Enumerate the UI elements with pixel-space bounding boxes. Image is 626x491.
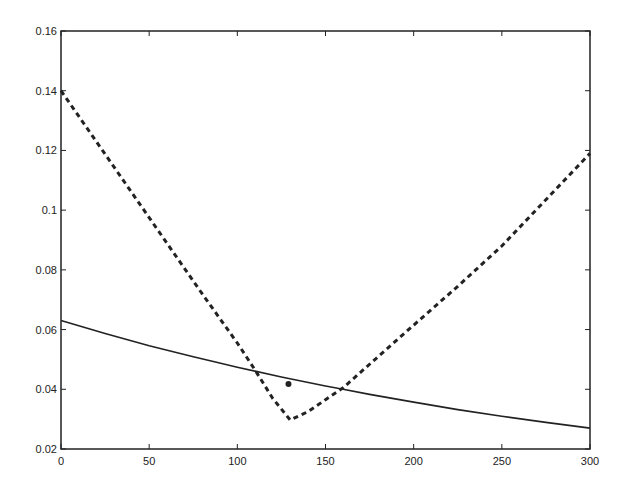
x-tick-label: 250 (493, 455, 511, 467)
chart-container: 050100150200250300 0.020.040.060.080.10.… (0, 0, 626, 491)
x-tick-label: 100 (228, 455, 246, 467)
series-solid-line (61, 321, 590, 429)
marker-point (285, 381, 291, 387)
y-tick-label: 0.04 (36, 383, 57, 395)
y-tick-label: 0.16 (36, 25, 57, 37)
y-tick-label: 0.08 (36, 264, 57, 276)
y-tick-label: 0.06 (36, 324, 57, 336)
series-group (61, 91, 590, 428)
x-tick-label: 200 (404, 455, 422, 467)
y-tick-label: 0.1 (42, 204, 57, 216)
x-tick-label: 50 (143, 455, 155, 467)
y-tick-label: 0.14 (36, 85, 57, 97)
series-dashed-line (61, 91, 590, 420)
y-tick-label: 0.12 (36, 144, 57, 156)
line-chart: 050100150200250300 0.020.040.060.080.10.… (0, 0, 626, 491)
x-tick-label: 150 (316, 455, 334, 467)
x-tick-label: 300 (581, 455, 599, 467)
x-axis: 050100150200250300 (58, 31, 599, 467)
y-tick-label: 0.02 (36, 443, 57, 455)
x-tick-label: 0 (58, 455, 64, 467)
